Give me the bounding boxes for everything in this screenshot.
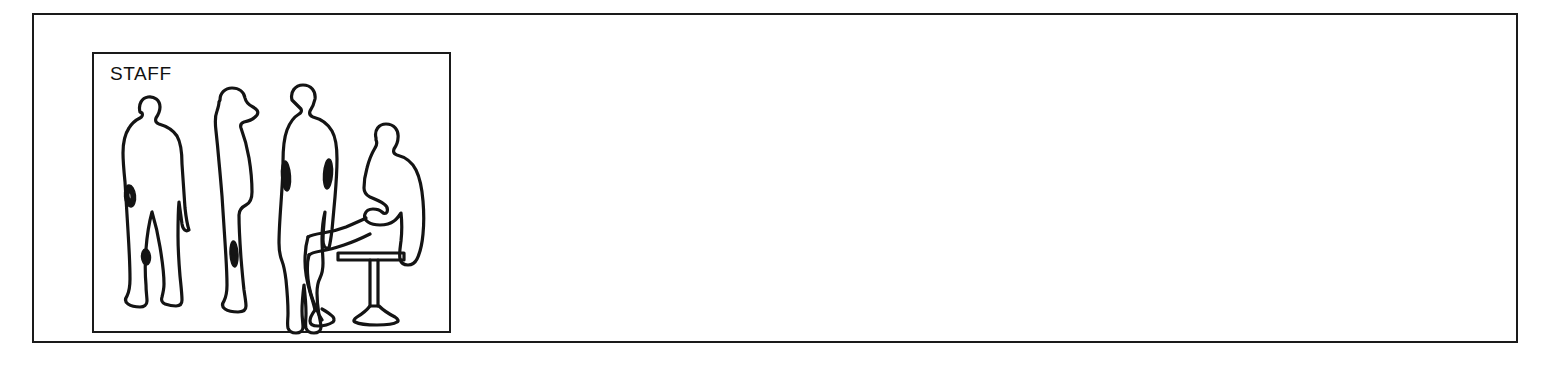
staff-figures-illustration [94, 54, 453, 335]
blank-drawing-area [453, 15, 1516, 341]
figure-2-body-outline [215, 88, 257, 312]
figure-1-standing-person-front [123, 97, 189, 307]
screenshot-canvas: STAFF [0, 0, 1549, 367]
figure-3-body-outline [279, 85, 337, 333]
figure-4-stool-base [354, 306, 398, 325]
figure-4-body-outline [364, 124, 424, 265]
figure-1-knee-oval-inner [144, 252, 147, 258]
figure-1-hand-oval-inner [127, 191, 132, 201]
staff-legend-panel: STAFF [92, 52, 451, 333]
figure-2-hand-oval-inner [233, 244, 236, 254]
figure-3-standing-person-coat [279, 85, 337, 333]
drawing-sheet-border: STAFF [32, 13, 1518, 343]
figure-2-standing-person-profile [215, 88, 257, 312]
figure-4-stool-column [370, 260, 378, 306]
